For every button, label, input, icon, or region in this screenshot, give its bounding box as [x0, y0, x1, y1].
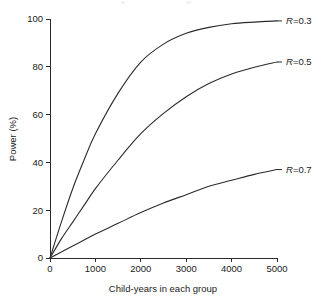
cropped-title-artifact	[121, 1, 191, 4]
y-tick-label: 40	[32, 157, 43, 168]
series-label-R05: R=0.5	[286, 56, 312, 67]
series-line-R07	[50, 170, 277, 258]
series-label-value: =0.5	[293, 56, 312, 67]
y-axis-ticks: 020406080100	[27, 13, 50, 263]
series-label-R03: R=0.3	[286, 15, 312, 26]
y-axis-title: Power (%)	[7, 117, 18, 161]
y-tick-label: 80	[32, 61, 43, 72]
y-tick-label: 60	[32, 109, 43, 120]
x-axis-ticks: 010002000300040005000	[47, 258, 287, 274]
y-tick-label: 0	[38, 252, 43, 263]
axis-lines	[50, 19, 277, 258]
series-label-group: R=0.3R=0.5R=0.7	[277, 15, 312, 175]
power-vs-child-years-line-chart: 020406080100 010002000300040005000 R=0.3…	[0, 0, 320, 298]
x-tick-label: 3000	[176, 263, 197, 274]
x-tick-label: 1000	[85, 263, 106, 274]
x-axis-title: Child-years in each group	[109, 283, 217, 294]
y-tick-label: 100	[27, 13, 43, 24]
series-line-R03	[50, 21, 277, 258]
series-label-value: =0.7	[293, 164, 312, 175]
x-tick-label: 5000	[266, 263, 287, 274]
x-tick-label: 0	[47, 263, 52, 274]
y-tick-label: 20	[32, 205, 43, 216]
chart-figure: 020406080100 010002000300040005000 R=0.3…	[0, 0, 320, 298]
x-tick-label: 2000	[130, 263, 151, 274]
series-label-value: =0.3	[293, 15, 312, 26]
x-tick-label: 4000	[221, 263, 242, 274]
series-label-R07: R=0.7	[286, 164, 312, 175]
data-series-group	[50, 21, 277, 258]
